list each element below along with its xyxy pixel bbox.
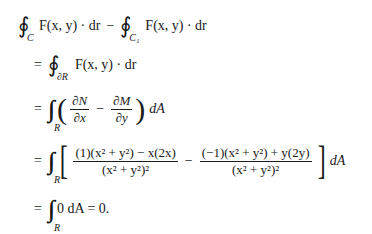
equation-line-1: ∮C F(x, y) · dr − ∮C₁ F(x, y) · dr bbox=[18, 10, 207, 42]
double-integral-symbol: ∫∫R bbox=[48, 197, 49, 221]
equals-sign: = bbox=[34, 201, 42, 217]
left-bracket: [ bbox=[60, 141, 68, 181]
right-paren: ) bbox=[135, 94, 145, 124]
integral-subscript: R bbox=[54, 223, 60, 233]
equation-line-5: = ∫∫R 0 dA = 0. bbox=[34, 193, 109, 225]
integrand-term: F(x, y) · dr bbox=[39, 18, 100, 34]
result-expression: 0 dA = 0. bbox=[57, 201, 109, 217]
integral-subscript: R bbox=[54, 123, 60, 133]
denominator: (x² + y²)² bbox=[232, 162, 279, 178]
fraction: (1)(x² + y²) − x(2x)(x² + y²)² bbox=[73, 145, 177, 178]
fraction: ∂M∂y bbox=[111, 93, 132, 126]
double-integral-symbol: ∫∫R bbox=[48, 97, 49, 121]
numerator: ∂N bbox=[70, 93, 89, 110]
denominator: ∂x bbox=[74, 110, 86, 126]
right-bracket: ] bbox=[317, 141, 325, 181]
differential: dA bbox=[149, 101, 165, 117]
contour-integral-symbol: ∮∂R bbox=[48, 54, 59, 76]
left-paren: ( bbox=[57, 94, 67, 124]
double-integral-symbol: ∫∫R bbox=[48, 149, 49, 173]
integral-subscript: C₁ bbox=[129, 33, 139, 43]
equals-sign: = bbox=[34, 153, 42, 169]
denominator: ∂y bbox=[116, 110, 128, 126]
contour-integral-symbol: ∮C₁ bbox=[120, 15, 131, 37]
equals-sign: = bbox=[34, 101, 42, 117]
integrand-term: F(x, y) · dr bbox=[75, 57, 136, 73]
differential: dA bbox=[330, 153, 346, 169]
minus-sign: − bbox=[96, 101, 104, 117]
equation-line-3: = ∫∫R ( ∂N∂x − ∂M∂y ) dA bbox=[34, 90, 165, 128]
integrand-term: F(x, y) · dr bbox=[145, 18, 206, 34]
numerator: (1)(x² + y²) − x(2x) bbox=[73, 145, 177, 162]
denominator: (x² + y²)² bbox=[102, 162, 149, 178]
equation-line-2: = ∮∂R F(x, y) · dr bbox=[34, 50, 136, 80]
fraction: (−1)(x² + y²) + y(2y)(x² + y²)² bbox=[200, 145, 312, 178]
numerator: (−1)(x² + y²) + y(2y) bbox=[200, 145, 312, 162]
minus-sign: − bbox=[106, 18, 114, 34]
minus-sign: − bbox=[185, 153, 193, 169]
integral-subscript: ∂R bbox=[57, 72, 68, 82]
fraction: ∂N∂x bbox=[70, 93, 89, 126]
numerator: ∂M bbox=[111, 93, 132, 110]
integral-subscript: C bbox=[27, 33, 34, 43]
contour-integral-symbol: ∮C bbox=[18, 15, 29, 37]
equals-sign: = bbox=[34, 57, 42, 73]
equation-line-4: = ∫∫R [ (1)(x² + y²) − x(2x)(x² + y²)² −… bbox=[34, 141, 345, 181]
